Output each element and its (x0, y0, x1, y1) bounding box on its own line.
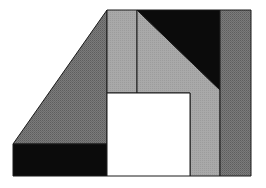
piece-center-square (107, 93, 190, 176)
diagram-canvas (0, 0, 266, 188)
dissection-figure (0, 0, 266, 188)
piece-left-trapezoid (13, 10, 107, 144)
piece-bottom-left-rect (13, 144, 107, 176)
pieces-group (13, 10, 251, 176)
piece-top-strip (107, 10, 137, 93)
piece-right-strip (220, 10, 251, 176)
